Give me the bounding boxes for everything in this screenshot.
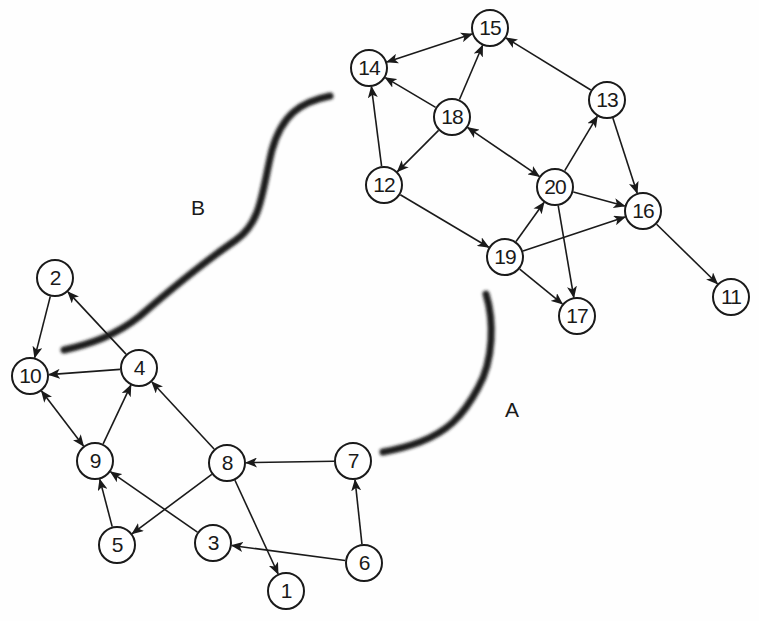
edge-3-9 (111, 472, 198, 532)
node-5: 5 (98, 526, 136, 564)
node-16: 16 (624, 192, 662, 230)
edge-8-5 (132, 474, 212, 533)
cut-curve-a (383, 294, 491, 452)
edge-4-10 (49, 369, 120, 374)
edge-8-4 (152, 382, 214, 449)
node-11: 11 (712, 278, 750, 316)
node-15: 15 (471, 9, 509, 47)
edge-13-15 (506, 38, 591, 90)
edge-18-20 (468, 128, 540, 177)
edge-6-7 (355, 480, 362, 544)
edge-20-16 (573, 192, 624, 206)
edge-19-16 (523, 217, 625, 251)
cut-curves (64, 96, 491, 452)
edge-9-4 (103, 385, 131, 444)
node-3: 3 (194, 524, 232, 562)
cut-label-a: A (505, 398, 519, 422)
edge-7-8 (246, 461, 334, 462)
node-18: 18 (433, 98, 471, 136)
edge-6-3 (232, 545, 345, 560)
node-19: 19 (486, 238, 524, 276)
edge-2-10 (35, 296, 51, 357)
edge-10-9 (42, 391, 84, 446)
node-13: 13 (588, 81, 626, 119)
node-17: 17 (558, 297, 596, 335)
node-9: 9 (76, 442, 114, 480)
edge-12-14 (371, 87, 381, 166)
edge-19-20 (516, 202, 544, 241)
node-1: 1 (267, 572, 305, 610)
node-8: 8 (208, 444, 246, 482)
edge-5-9 (100, 479, 112, 526)
edge-18-12 (397, 130, 438, 171)
cut-label-b: B (191, 196, 205, 220)
node-7: 7 (334, 442, 372, 480)
node-10: 10 (11, 357, 49, 395)
edge-20-13 (565, 116, 598, 170)
edge-14-15 (387, 34, 472, 62)
edge-20-17 (558, 206, 574, 298)
edge-18-14 (385, 78, 435, 108)
node-2: 2 (36, 259, 74, 297)
edge-16-11 (657, 224, 718, 283)
node-6: 6 (345, 544, 383, 582)
cut-curve-b (64, 96, 330, 350)
edge-12-19 (400, 195, 488, 248)
edge-13-16 (613, 118, 637, 193)
edge-19-17 (520, 269, 563, 304)
edge-18-15 (459, 45, 482, 99)
node-20: 20 (536, 168, 574, 206)
node-14: 14 (350, 49, 388, 87)
node-4: 4 (120, 349, 158, 387)
node-12: 12 (365, 166, 403, 204)
graph-canvas: 1234567891011121314151617181920 BA (0, 0, 759, 621)
edge-8-1 (235, 480, 278, 573)
